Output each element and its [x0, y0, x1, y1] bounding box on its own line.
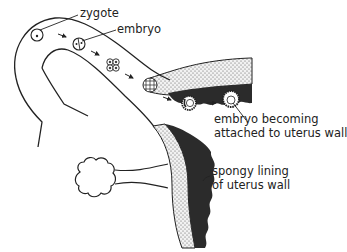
lower-uterus-wall: [153, 124, 215, 248]
label-spongy-line1: spongy lining: [212, 164, 289, 178]
blastocyst: [182, 96, 196, 110]
implanting-embryo: [223, 91, 239, 107]
morula: [143, 78, 157, 92]
zygote-cell: [31, 29, 43, 41]
label-spongy-line2: of uterus wall: [212, 178, 290, 192]
label-zygote: zygote: [80, 6, 119, 20]
label-attached-line2: attached to uterus wall: [214, 126, 347, 140]
label-attached-line1: embryo becoming: [214, 112, 319, 126]
ovary: [75, 158, 168, 197]
label-embryo: embryo: [117, 22, 161, 36]
four-cell-embryo: [107, 59, 119, 71]
two-cell-embryo: [73, 38, 85, 50]
